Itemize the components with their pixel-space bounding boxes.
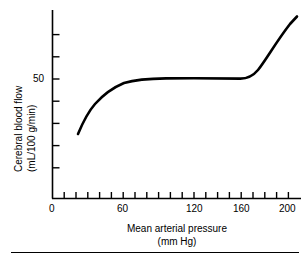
y-tick-label-50: 50	[33, 73, 44, 84]
y-axis-units: (mL/100 g/min)	[26, 105, 38, 172]
x-tick-label-0: 0	[49, 203, 55, 214]
y-axis-title: Cerebral blood flow	[13, 86, 25, 172]
x-tick-label-60: 60	[117, 203, 128, 214]
cerebral-blood-flow-curve	[78, 17, 297, 135]
figure-container: 50 0 60 120 160 200 Mean arterial pressu…	[0, 0, 308, 261]
x-tick-label-200: 200	[279, 203, 296, 214]
x-axis-ticks	[64, 192, 288, 199]
x-axis-title: Mean arterial pressure	[52, 222, 302, 235]
x-tick-label-120: 120	[186, 203, 203, 214]
x-tick-label-160: 160	[233, 203, 250, 214]
x-axis-units: (mm Hg)	[52, 235, 302, 248]
footer-divider	[11, 252, 299, 253]
y-axis-ticks	[53, 35, 60, 168]
